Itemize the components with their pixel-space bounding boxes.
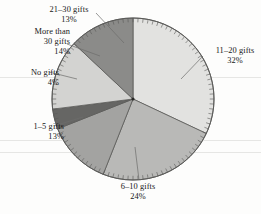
slice-label-percent: 32% <box>205 56 261 66</box>
slice-label-name: 11–20 gifts <box>216 46 255 55</box>
slice-label-percent: 13% <box>2 132 64 142</box>
slice-label-name: No gifts <box>31 68 59 77</box>
slice-label-percent: 14% <box>4 47 70 57</box>
slice-label-more-than-30-gifts: More than 30 gifts 14% <box>4 27 70 58</box>
slice-label-6-10-gifts: 6–10 gifts 24% <box>98 182 178 202</box>
slice-label-1-5-gifts: 1–5 gifts 13% <box>2 122 64 142</box>
slice-label-name: 6–10 gifts <box>121 182 156 191</box>
slice-label-11-20-gifts: 11–20 gifts 32% <box>205 46 261 66</box>
slice-label-no-gifts: No gifts 4% <box>3 68 59 88</box>
slice-label-21-30-gifts: 21–30 gifts 13% <box>30 5 108 25</box>
pie-chart-figure: 21–30 gifts 13% More than 30 gifts 14% N… <box>0 0 261 214</box>
slice-label-percent: 24% <box>98 192 178 202</box>
slice-label-name: 1–5 gifts <box>34 122 64 131</box>
slice-label-name-line1: More than <box>34 27 70 36</box>
slice-label-percent: 13% <box>30 15 108 25</box>
pie-center-dot <box>131 97 134 100</box>
slice-label-name: 21–30 gifts <box>49 5 88 14</box>
slice-label-name-line2: 30 gifts <box>4 37 70 47</box>
slice-label-percent: 4% <box>3 78 59 88</box>
